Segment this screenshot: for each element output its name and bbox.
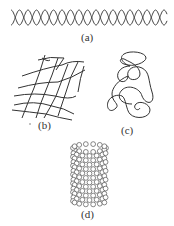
panel-label-b: (b) <box>38 120 51 131</box>
network-diagram <box>12 55 85 120</box>
random-coil-diagram <box>107 52 152 118</box>
double-helix-diagram <box>11 10 167 25</box>
panel-label-d: (d) <box>81 209 94 220</box>
stray-dot <box>29 123 31 125</box>
panel-label-c: (c) <box>121 125 133 136</box>
panel-label-a: (a) <box>81 32 93 43</box>
sphere-tube-diagram <box>71 142 109 207</box>
